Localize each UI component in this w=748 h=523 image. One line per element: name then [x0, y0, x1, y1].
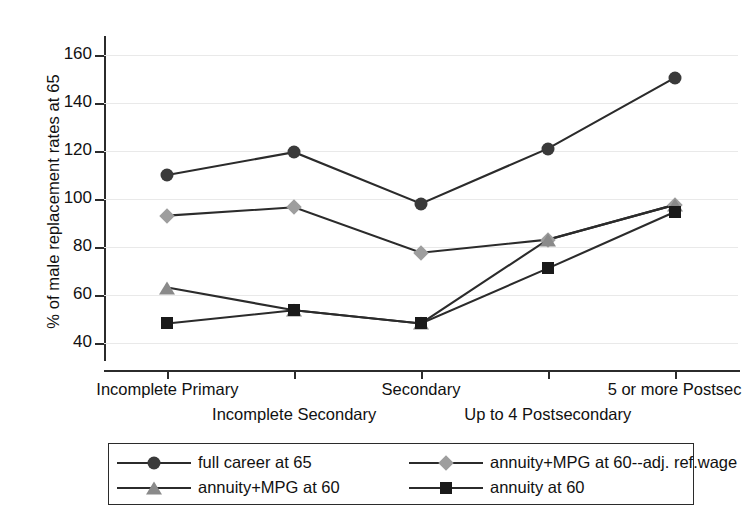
- data-point-circle: [161, 168, 174, 181]
- legend-item[interactable]: annuity+MPG at 60: [117, 478, 409, 497]
- x-tick-label: Incomplete Primary: [96, 380, 238, 399]
- y-tick-label: 140: [32, 92, 92, 112]
- y-tick-mark: [95, 151, 104, 153]
- y-tick-mark: [95, 247, 104, 249]
- y-tick-mark: [95, 295, 104, 297]
- y-tick-label: 60: [32, 284, 92, 304]
- x-tick-label: Incomplete Secondary: [212, 405, 376, 424]
- x-tick-mark: [167, 370, 169, 379]
- y-tick-label: 100: [32, 188, 92, 208]
- legend: full career at 65annuity+MPG at 60--adj.…: [108, 443, 694, 505]
- y-tick-label: 120: [32, 140, 92, 160]
- data-point-square: [669, 206, 681, 218]
- y-tick-mark: [95, 103, 104, 105]
- y-tick-mark: [95, 55, 104, 57]
- legend-item[interactable]: full career at 65: [117, 453, 409, 472]
- x-tick-mark: [294, 370, 296, 379]
- legend-label: full career at 65: [198, 453, 312, 472]
- square-marker-icon: [440, 482, 452, 494]
- series-line: [167, 78, 674, 204]
- series-line: [167, 205, 674, 324]
- x-tick-label: Secondary: [382, 380, 461, 399]
- x-tick-mark: [548, 370, 550, 379]
- x-tick-mark: [421, 370, 423, 379]
- y-tick-label: 160: [32, 44, 92, 64]
- legend-item[interactable]: annuity+MPG at 60--adj. ref.wage: [409, 453, 687, 472]
- data-point-circle: [288, 146, 301, 159]
- data-point-circle: [668, 71, 681, 84]
- data-point-triangle: [159, 281, 175, 294]
- legend-swatch: [409, 480, 483, 496]
- data-point-square: [161, 317, 173, 329]
- legend-item[interactable]: annuity at 60: [409, 478, 687, 497]
- line-chart: % of male replacement rates at 65 406080…: [0, 0, 748, 523]
- data-point-square: [542, 262, 554, 274]
- triangle-marker-icon: [146, 481, 162, 494]
- legend-swatch: [117, 455, 191, 471]
- legend-swatch: [409, 455, 483, 471]
- legend-swatch: [117, 480, 191, 496]
- diamond-marker-icon: [438, 455, 454, 471]
- x-tick-label: Up to 4 Postsecondary: [464, 405, 631, 424]
- legend-label: annuity at 60: [490, 478, 585, 497]
- x-tick-mark: [675, 370, 677, 379]
- series-line: [167, 212, 674, 323]
- y-tick-mark: [95, 343, 104, 345]
- plot-area: [104, 36, 738, 357]
- legend-label: annuity+MPG at 60: [198, 478, 340, 497]
- x-tick-label: 5 or more Postsec: [608, 380, 742, 399]
- circle-marker-icon: [148, 456, 161, 469]
- y-tick-mark: [95, 199, 104, 201]
- data-point-triangle: [540, 233, 556, 246]
- data-point-square: [415, 317, 427, 329]
- data-point-circle: [541, 142, 554, 155]
- y-tick-label: 80: [32, 236, 92, 256]
- legend-label: annuity+MPG at 60--adj. ref.wage: [490, 453, 737, 472]
- y-tick-label: 40: [32, 332, 92, 352]
- data-point-square: [288, 304, 300, 316]
- data-point-circle: [415, 197, 428, 210]
